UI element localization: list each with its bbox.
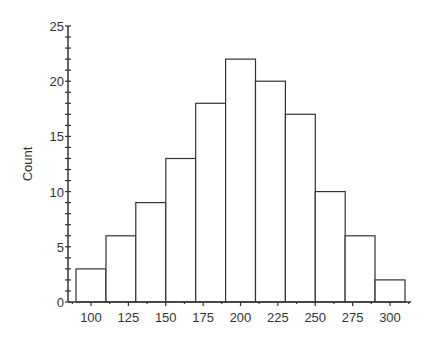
histogram-bar bbox=[166, 159, 196, 303]
x-axis: 100125150175200225250275300 bbox=[68, 302, 411, 325]
x-tick-label: 225 bbox=[267, 310, 289, 325]
x-tick-label: 300 bbox=[379, 310, 401, 325]
histogram-bar bbox=[196, 103, 226, 302]
y-tick-label: 0 bbox=[57, 295, 64, 310]
histogram-bar bbox=[226, 59, 256, 302]
histogram-bar bbox=[375, 280, 405, 302]
histogram-bar bbox=[256, 81, 286, 302]
y-tick-label: 10 bbox=[50, 185, 64, 200]
y-tick-label: 15 bbox=[50, 129, 64, 144]
y-tick-label: 20 bbox=[50, 74, 64, 89]
y-tick-label: 5 bbox=[57, 240, 64, 255]
histogram-bar bbox=[315, 192, 345, 302]
histogram-bar bbox=[106, 236, 136, 302]
histogram-bar bbox=[345, 236, 375, 302]
x-tick-label: 250 bbox=[304, 310, 326, 325]
x-tick-label: 200 bbox=[230, 310, 252, 325]
y-axis: 0510152025 bbox=[50, 19, 71, 310]
x-tick-label: 100 bbox=[80, 310, 102, 325]
x-tick-label: 175 bbox=[192, 310, 214, 325]
x-tick-label: 125 bbox=[118, 310, 140, 325]
histogram-bars bbox=[76, 59, 405, 302]
x-tick-label: 275 bbox=[342, 310, 364, 325]
x-tick-label: 150 bbox=[155, 310, 177, 325]
histogram-bar bbox=[76, 269, 106, 302]
y-tick-label: 25 bbox=[50, 19, 64, 34]
histogram-bar bbox=[285, 114, 315, 302]
histogram-bar bbox=[136, 203, 166, 302]
histogram-chart: 0510152025 100125150175200225250275300 C… bbox=[0, 0, 430, 340]
y-axis-label: Count bbox=[20, 146, 35, 181]
